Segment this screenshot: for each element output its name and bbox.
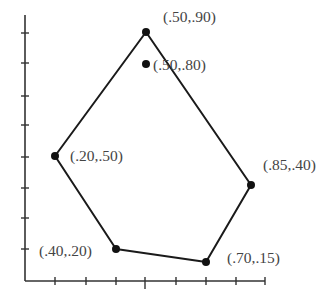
- point-dot: [142, 60, 150, 68]
- point-dot: [112, 245, 120, 253]
- point-dot: [51, 152, 59, 160]
- point-label: (.40,.20): [39, 242, 92, 260]
- convex-hull-diagram: (.50,.90)(.50,.80)(.20,.50)(.85,.40)(.40…: [0, 0, 336, 304]
- point-label: (.70,.15): [227, 249, 280, 267]
- point-label: (.85,.40): [263, 156, 316, 174]
- point-dot: [202, 258, 210, 266]
- point-labels: (.50,.90)(.50,.80)(.20,.50)(.85,.40)(.40…: [39, 8, 316, 267]
- point-label: (.50,.80): [153, 56, 206, 74]
- point-dot: [142, 28, 150, 36]
- point-label: (.20,.50): [70, 147, 123, 165]
- point-label: (.50,.90): [163, 8, 216, 26]
- point-dot: [247, 181, 255, 189]
